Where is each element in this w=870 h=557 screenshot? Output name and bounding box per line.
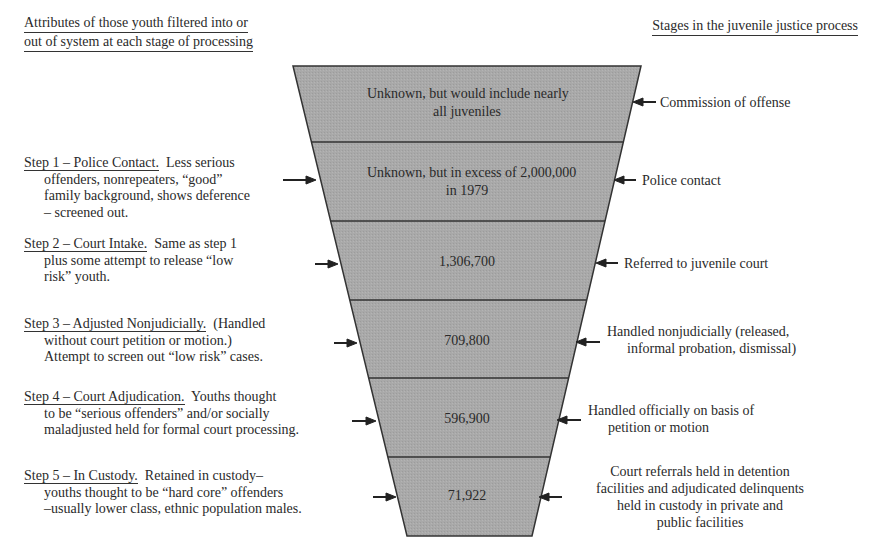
step-text: Attempt to screen out “low risk” cases.: [24, 349, 265, 366]
left-pointing-arrow-icon: [614, 176, 636, 184]
band-handled-officially: 596,900: [367, 410, 567, 428]
band-referred-to-court: 1,306,700: [367, 253, 567, 271]
stage-police-contact: Police contact: [642, 172, 721, 189]
right-pointing-arrow-icon: [283, 176, 316, 184]
stage-label: Referred to juvenile court: [624, 255, 768, 272]
stage-label: petition or motion: [588, 419, 754, 436]
step-title: Step 5 – In Custody.: [24, 468, 138, 484]
step-text: family background, shows deference: [24, 188, 250, 205]
band-text-line: all juveniles: [367, 103, 567, 121]
step-title: Step 3 – Adjusted Nonjudicially.: [24, 316, 206, 332]
right-pointing-arrow-icon: [334, 339, 357, 347]
step-text: risk” youth.: [24, 269, 237, 286]
stage-label: Court referrals held in detention: [566, 463, 834, 480]
left-pointing-arrow-icon: [633, 98, 656, 106]
stage-label: facilities and adjudicated delinquents: [566, 480, 834, 497]
band-text-line: Unknown, but would include nearly: [367, 85, 567, 103]
stage-handled-nonjudicially: Handled nonjudicially (released, informa…: [607, 323, 796, 357]
band-commission-of-offense: Unknown, but would include nearly all ju…: [367, 85, 567, 121]
step-text: – screened out.: [24, 205, 250, 222]
stage-referred-to-juvenile-court: Referred to juvenile court: [624, 255, 768, 272]
band-text-line: Unknown, but in excess of 2,000,000: [367, 164, 567, 182]
step-text: Youths thought: [191, 389, 276, 404]
stage-label: Police contact: [642, 172, 721, 189]
stage-label: Commission of offense: [660, 94, 790, 111]
step-title: Step 1 – Police Contact.: [24, 155, 159, 171]
left-pointing-arrow-icon: [596, 259, 618, 267]
band-text-line: in 1979: [367, 182, 567, 200]
band-value: 709,800: [367, 332, 567, 350]
stage-commission-of-offense: Commission of offense: [660, 94, 790, 111]
band-police-contact: Unknown, but in excess of 2,000,000 in 1…: [367, 164, 567, 200]
band-value: 596,900: [367, 410, 567, 428]
step-text: Less serious: [166, 155, 235, 170]
step-text: plus some attempt to release “low: [24, 253, 237, 270]
step-text: youths thought to be “hard core” offende…: [24, 485, 302, 502]
step-text: offenders, nonrepeaters, “good”: [24, 172, 250, 189]
band-in-custody: 71,922: [367, 487, 567, 505]
step-1-police-contact: Step 1 – Police Contact. Less serious of…: [24, 155, 250, 221]
stage-label: informal probation, dismissal): [607, 340, 796, 357]
stage-label: Handled officially on basis of: [588, 402, 754, 419]
step-text: Same as step 1: [154, 236, 237, 251]
step-text: –usually lower class, ethnic population …: [24, 501, 302, 518]
left-pointing-arrow-icon: [576, 338, 600, 346]
step-text: Retained in custody–: [145, 468, 263, 483]
step-text: (Handled: [213, 316, 265, 331]
band-value: 1,306,700: [367, 253, 567, 271]
step-5-in-custody: Step 5 – In Custody. Retained in custody…: [24, 468, 302, 518]
right-pointing-arrow-icon: [315, 260, 338, 268]
stage-label: public facilities: [566, 514, 834, 531]
band-handled-nonjudicially: 709,800: [367, 332, 567, 350]
step-title: Step 4 – Court Adjudication.: [24, 389, 185, 405]
step-text: to be “serious offenders” and/or sociall…: [24, 406, 299, 423]
band-value: 71,922: [367, 487, 567, 505]
step-4-court-adjudication: Step 4 – Court Adjudication. Youths thou…: [24, 389, 299, 439]
step-text: without court petition or motion.): [24, 333, 265, 350]
step-3-adjusted-nonjudicially: Step 3 – Adjusted Nonjudicially. (Handle…: [24, 316, 265, 366]
step-title: Step 2 – Court Intake.: [24, 236, 147, 252]
stage-handled-officially: Handled officially on basis of petition …: [588, 402, 754, 436]
stage-label: held in custody in private and: [566, 497, 834, 514]
stage-label: Handled nonjudicially (released,: [607, 323, 796, 340]
stage-in-custody: Court referrals held in detention facili…: [566, 463, 834, 531]
step-2-court-intake: Step 2 – Court Intake. Same as step 1 pl…: [24, 236, 237, 286]
step-text: maladjusted held for formal court proces…: [24, 422, 299, 439]
